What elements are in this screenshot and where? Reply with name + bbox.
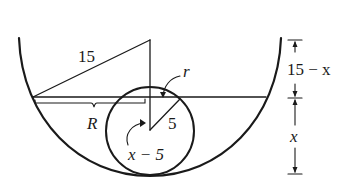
dim-arrow-mid-down [293, 91, 298, 97]
label-5: 5 [168, 115, 177, 132]
x-minus-5-arrow [127, 123, 144, 145]
dim-arrow-mid-up [293, 99, 298, 105]
dim-arrow-bottom-down [293, 167, 298, 173]
dim-arrow-top-up [293, 41, 298, 47]
x-minus-5-arrowhead [140, 119, 146, 127]
label-x-minus-5: x − 5 [128, 146, 164, 163]
label-15: 15 [78, 48, 95, 65]
bowl-diagram [0, 0, 363, 187]
label-R: R [87, 115, 97, 132]
R-brace [35, 99, 145, 107]
label-15-minus-x: 15 − x [287, 61, 331, 78]
label-r: r [183, 63, 190, 80]
label-x: x [290, 128, 298, 145]
